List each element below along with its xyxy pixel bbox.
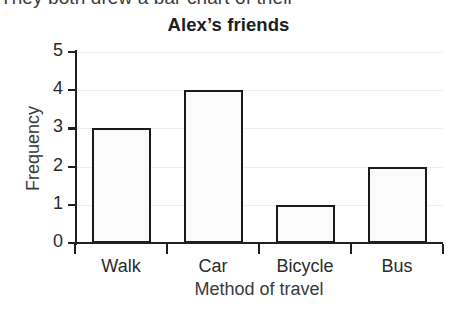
- bar: [368, 167, 427, 243]
- y-axis-tick-label: 4: [41, 78, 63, 99]
- x-axis-title: Method of travel: [75, 279, 443, 300]
- y-axis-line: [75, 50, 77, 245]
- y-axis-tick-label: 2: [41, 155, 63, 176]
- chart-title: Alex’s friends: [0, 14, 457, 36]
- x-axis-category-label: Car: [167, 256, 259, 277]
- bar-chart-screenshot: They both drew a bar chart of their Alex…: [0, 0, 457, 312]
- cropped-sentence-fragment: They both drew a bar chart of their: [0, 0, 340, 13]
- y-axis-tick: [68, 166, 77, 168]
- y-axis-tick: [68, 127, 77, 129]
- bar: [184, 90, 243, 243]
- x-axis-tick: [442, 244, 444, 254]
- y-axis-tick-label: 5: [41, 40, 63, 61]
- x-axis-tick: [258, 244, 260, 254]
- x-axis-tick: [74, 244, 76, 254]
- x-axis-tick: [350, 244, 352, 254]
- y-axis-tick-label: 1: [41, 193, 63, 214]
- bar: [276, 205, 335, 243]
- y-axis-tick: [68, 204, 77, 206]
- gridline: [75, 52, 443, 53]
- gridline: [75, 90, 443, 91]
- y-axis-tick-label: 0: [41, 231, 63, 252]
- x-axis-category-label: Bus: [351, 256, 443, 277]
- x-axis-category-label: Bicycle: [259, 256, 351, 277]
- bar: [92, 128, 151, 243]
- y-axis-tick: [68, 51, 77, 53]
- y-axis-tick-label: 3: [41, 116, 63, 137]
- x-axis-tick: [166, 244, 168, 254]
- x-axis-category-label: Walk: [75, 256, 167, 277]
- y-axis-tick: [68, 89, 77, 91]
